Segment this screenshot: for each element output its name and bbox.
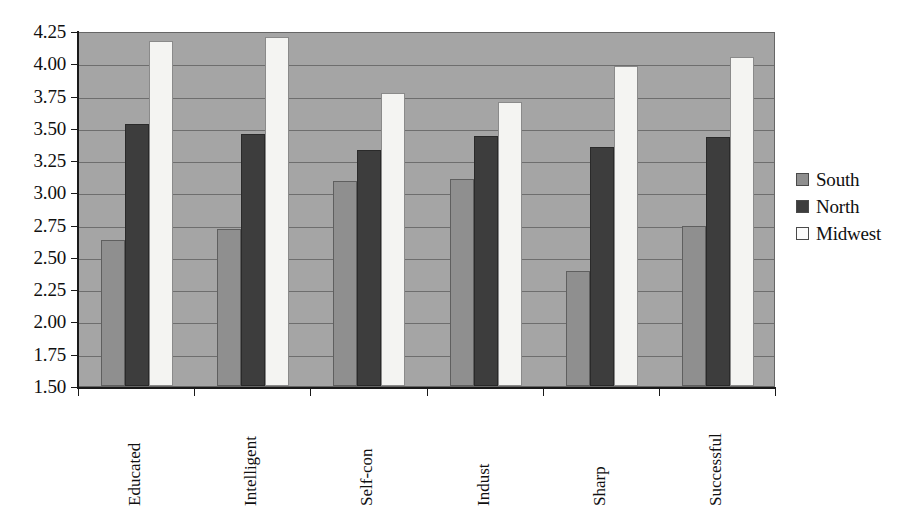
bar-south-educated (101, 240, 125, 386)
bar-south-self-con (333, 181, 357, 386)
x-tick-mark (659, 388, 660, 396)
y-tick-mark (71, 290, 78, 291)
x-axis-label-successful: Successful (707, 433, 724, 506)
legend-label: South (816, 170, 859, 189)
y-tick-label: 2.25 (0, 280, 66, 299)
x-axis-label-sharp: Sharp (591, 466, 608, 506)
bar-north-self-con (357, 150, 381, 386)
bar-midwest-indust (498, 102, 522, 386)
x-axis-label-educated: Educated (126, 443, 143, 506)
y-tick-label: 3.00 (0, 183, 66, 202)
legend-item-south[interactable]: South (796, 166, 881, 193)
bar-midwest-intelligent (265, 37, 289, 386)
bar-south-intelligent (217, 229, 241, 386)
y-tick-label: 4.00 (0, 54, 66, 73)
x-tick-mark (543, 388, 544, 396)
y-tick-mark (71, 322, 78, 323)
x-axis-label-indust: Indust (475, 464, 492, 507)
gridline (79, 259, 774, 260)
x-tick-mark (427, 388, 428, 396)
y-tick-label: 1.75 (0, 345, 66, 364)
legend-swatch-south (796, 173, 809, 186)
gridline (79, 98, 774, 99)
bar-midwest-self-con (381, 93, 405, 386)
bar-north-indust (474, 136, 498, 386)
y-tick-label: 4.25 (0, 22, 66, 41)
gridline (79, 194, 774, 195)
x-tick-mark (775, 388, 776, 396)
x-tick-mark (194, 388, 195, 396)
bar-north-intelligent (241, 134, 265, 386)
y-tick-label: 3.75 (0, 87, 66, 106)
plot-area (78, 32, 775, 387)
y-tick-mark (71, 32, 78, 33)
legend-swatch-midwest (796, 227, 809, 240)
y-tick-label: 3.50 (0, 119, 66, 138)
legend-item-north[interactable]: North (796, 193, 881, 220)
bar-north-educated (125, 124, 149, 386)
gridline (79, 323, 774, 324)
gridline (79, 65, 774, 66)
gridline (79, 162, 774, 163)
bar-midwest-educated (149, 41, 173, 386)
bar-north-sharp (590, 147, 614, 386)
legend-swatch-north (796, 200, 809, 213)
y-tick-mark (71, 193, 78, 194)
y-tick-mark (71, 64, 78, 65)
y-axis-line (77, 31, 79, 389)
chart-legend: SouthNorthMidwest (796, 166, 881, 247)
x-tick-mark (310, 388, 311, 396)
x-axis-label-self-con: Self-con (358, 448, 375, 506)
bar-south-successful (682, 226, 706, 386)
legend-label: North (816, 197, 859, 216)
y-tick-label: 1.50 (0, 377, 66, 396)
y-tick-mark (71, 161, 78, 162)
gridline (79, 130, 774, 131)
legend-item-midwest[interactable]: Midwest (796, 220, 881, 247)
legend-label: Midwest (816, 224, 881, 243)
y-tick-mark (71, 97, 78, 98)
gridline (79, 291, 774, 292)
bar-chart: 4.254.003.753.503.253.002.752.502.252.00… (0, 0, 909, 515)
y-tick-label: 2.75 (0, 216, 66, 235)
y-tick-mark (71, 226, 78, 227)
y-tick-mark (71, 355, 78, 356)
bar-midwest-sharp (614, 66, 638, 386)
bar-midwest-successful (730, 57, 754, 386)
y-tick-label: 2.50 (0, 248, 66, 267)
x-tick-mark (78, 388, 79, 396)
y-tick-mark (71, 258, 78, 259)
y-tick-label: 2.00 (0, 312, 66, 331)
y-tick-label: 3.25 (0, 151, 66, 170)
gridline (79, 227, 774, 228)
x-axis-label-intelligent: Intelligent (242, 436, 259, 506)
gridline (79, 356, 774, 357)
bar-south-sharp (566, 271, 590, 386)
bar-south-indust (450, 179, 474, 386)
bar-north-successful (706, 137, 730, 386)
y-tick-mark (71, 129, 78, 130)
